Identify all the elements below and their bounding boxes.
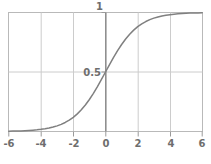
x-axis-ticks	[9, 132, 202, 137]
x-tick-label--2: -2	[68, 138, 79, 149]
x-tick-label-4: 4	[168, 138, 175, 149]
x-tick-label--6: -6	[3, 138, 14, 149]
sigmoid-chart: -6 -4 -2 0 2 4 6 0.5 1	[0, 0, 211, 164]
x-tick-label-6: 6	[199, 138, 206, 149]
y-tick-label-1: 1	[96, 1, 103, 12]
y-tick-label-0.5: 0.5	[83, 67, 101, 78]
x-tick-label-0: 0	[103, 138, 110, 149]
x-tick-label--4: -4	[35, 138, 46, 149]
x-tick-label-2: 2	[135, 138, 142, 149]
